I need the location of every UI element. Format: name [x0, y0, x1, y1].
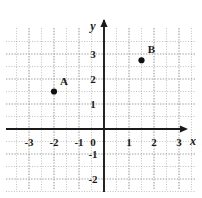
y-tick-label: -2	[88, 174, 97, 185]
plotted-point-a	[51, 88, 57, 94]
point-label-a: A	[60, 75, 68, 86]
axis-lines	[6, 19, 188, 192]
point-label-b: B	[148, 44, 155, 55]
x-tick-label: -2	[49, 137, 58, 148]
y-tick-label: 3	[90, 49, 96, 60]
x-tick-label: 1	[126, 137, 132, 148]
y-axis-arrowhead	[100, 19, 107, 27]
grid-major-lines	[6, 28, 196, 190]
x-tick-label: -1	[74, 137, 83, 148]
grid-minor-lines	[6, 28, 196, 192]
y-tick-label: 2	[90, 74, 96, 85]
y-tick-label: 1	[90, 99, 96, 110]
plotted-point-b	[138, 57, 144, 63]
y-tick-label: -1	[88, 149, 97, 160]
x-axis-name-label: x	[190, 135, 196, 147]
x-tick-label: 2	[151, 137, 157, 148]
coordinate-plane-figure	[0, 0, 202, 198]
x-axis-arrowhead	[180, 125, 188, 132]
origin-label: 0	[90, 137, 96, 148]
x-tick-label: 3	[176, 137, 182, 148]
x-tick-label: -3	[24, 137, 33, 148]
y-axis-name-label: y	[90, 20, 95, 32]
